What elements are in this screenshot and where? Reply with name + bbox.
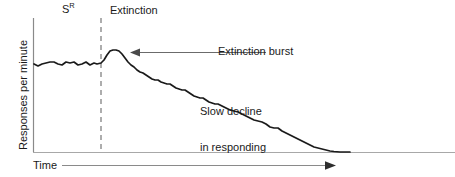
annotation-extinction-burst: Extinction burst [218, 45, 293, 57]
x-axis-label: Time [33, 159, 57, 171]
extinction-burst-figure: Responses per minute SR Extinction Extin… [0, 0, 455, 177]
annotation-slow-decline: Slow decline in responding [200, 81, 266, 177]
burst-annotation-arrowhead [130, 49, 140, 57]
response-rate-curve [34, 50, 350, 152]
annotation-slow-decline-line1: Slow decline [200, 105, 266, 117]
phase-label-extinction: Extinction [110, 4, 158, 16]
phase-label-reinforcement: SR [62, 3, 75, 15]
time-axis-arrowhead [325, 161, 336, 170]
annotation-slow-decline-line2: in responding [200, 141, 266, 153]
y-axis-label: Responses per minute [17, 25, 29, 165]
phase-label-reinforcement-superscript: R [69, 1, 74, 10]
